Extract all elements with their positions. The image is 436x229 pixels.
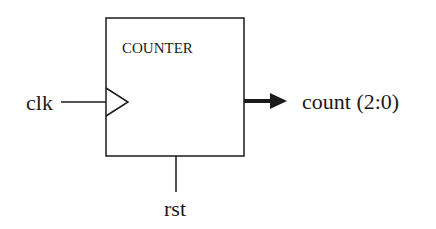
counter-block xyxy=(106,18,244,156)
counter-block-diagram: COUNTER clk rst count (2:0) xyxy=(0,0,436,229)
block-title: COUNTER xyxy=(122,40,193,56)
rst-label: rst xyxy=(164,196,186,221)
arrow-right-icon xyxy=(270,93,287,109)
count-label: count (2:0) xyxy=(302,89,399,114)
clk-label: clk xyxy=(26,90,53,115)
clock-triangle-icon xyxy=(106,88,128,116)
